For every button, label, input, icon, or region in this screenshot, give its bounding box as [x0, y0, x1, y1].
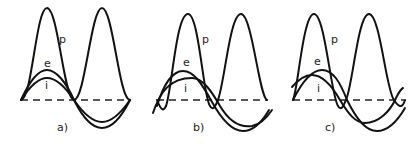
power-waveform-figure: p e i a) p e i b) p e i c) — [0, 0, 420, 146]
caption-b: b) — [193, 121, 204, 134]
power-curve-p — [21, 8, 130, 100]
label-e: e — [44, 57, 51, 70]
caption-c: c) — [325, 121, 335, 134]
label-p: p — [331, 33, 338, 46]
panel-c: p e i c) — [292, 14, 405, 134]
label-i: i — [184, 82, 187, 95]
label-i: i — [45, 79, 48, 92]
label-e: e — [314, 55, 321, 68]
label-p: p — [202, 33, 209, 46]
voltage-curve-e — [157, 71, 269, 131]
caption-a: a) — [57, 121, 68, 134]
diagram-canvas: p e i a) p e i b) p e i c) — [0, 0, 420, 146]
power-curve-p — [157, 14, 267, 109]
label-e: e — [183, 56, 190, 69]
label-p: p — [59, 33, 66, 46]
panel-b: p e i b) — [153, 14, 272, 134]
label-i: i — [317, 82, 320, 95]
panel-a: p e i a) — [21, 8, 130, 134]
power-curve-p — [293, 14, 405, 108]
